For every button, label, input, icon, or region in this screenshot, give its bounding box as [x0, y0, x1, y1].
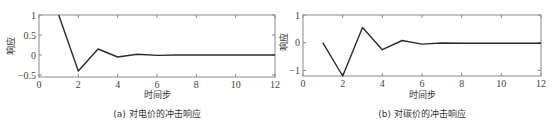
x-tick-label: 2	[340, 78, 345, 89]
y-tick-label: 1	[31, 10, 36, 21]
chart-caption-b: (b) 对碳价的冲击响应	[378, 107, 466, 120]
x-axis-label: 时间步	[409, 89, 436, 100]
x-tick-label: 2	[76, 79, 81, 90]
x-tick-label: 12	[536, 78, 546, 89]
x-axis-label: 时间步	[144, 89, 171, 100]
x-tick-label: 10	[231, 79, 241, 90]
x-tick-label: 0	[301, 78, 306, 89]
y-axis-label: 响应	[278, 33, 289, 51]
y-axis-label: 响应	[5, 37, 16, 55]
x-tick-label: 8	[194, 79, 199, 90]
response-line	[323, 28, 541, 77]
x-tick-label: 6	[420, 78, 425, 89]
y-tick-label: 0	[31, 50, 36, 61]
chart-panel-a: 024681012−0.500.51时间步响应 (a) 对电价的冲击响应	[0, 0, 277, 128]
y-tick-label: 1	[295, 10, 300, 21]
chart-panel-b: 024681012−101时间步响应 (b) 对碳价的冲击响应	[277, 0, 554, 128]
plot-frame	[303, 15, 541, 76]
response-line	[59, 15, 275, 71]
x-tick-label: 6	[155, 79, 160, 90]
y-tick-label: 0.5	[24, 30, 37, 41]
y-tick-label: 0	[295, 37, 300, 48]
y-tick-label: −1	[289, 65, 300, 76]
x-tick-label: 0	[37, 79, 42, 90]
plot-frame	[39, 15, 275, 77]
y-tick-label: −0.5	[18, 70, 36, 81]
x-tick-label: 8	[459, 78, 464, 89]
x-tick-label: 10	[496, 78, 506, 89]
chart-caption-a: (a) 对电价的冲击响应	[113, 107, 200, 120]
x-tick-label: 4	[380, 78, 385, 89]
x-tick-label: 4	[115, 79, 120, 90]
